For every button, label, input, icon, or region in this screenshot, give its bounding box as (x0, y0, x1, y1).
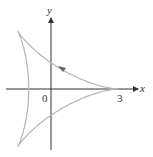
x-axis-label: x (139, 82, 145, 94)
origin-label: 0 (42, 92, 48, 104)
deltoid-diagram: x y 0 3 (0, 0, 153, 157)
x-tick-label-3: 3 (117, 92, 123, 104)
y-axis-label: y (46, 4, 52, 16)
